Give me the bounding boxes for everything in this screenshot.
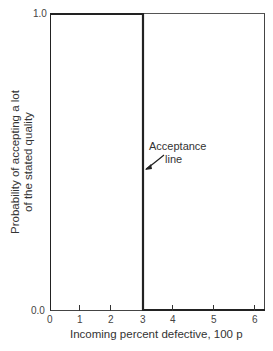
x-tick-5: 5 <box>211 314 217 325</box>
x-tick-4: 4 <box>170 314 176 325</box>
x-tick-mark-4 <box>172 305 173 311</box>
y-axis-title: Probability of accepting a lot of the st… <box>9 90 35 234</box>
x-tick-mark-6 <box>254 305 255 311</box>
y-tick-0: 0.0 <box>31 305 45 316</box>
x-tick-1: 1 <box>77 314 83 325</box>
x-tick-0: 0 <box>47 314 53 325</box>
x-tick-6: 6 <box>252 314 258 325</box>
x-axis-title: Incoming percent defective, 100 p <box>70 328 243 340</box>
x-tick-2: 2 <box>108 314 114 325</box>
y-axis-title-line-1: Probability of accepting a lot <box>9 90 22 234</box>
x-tick-mark-5 <box>213 305 214 311</box>
y-tick-1: 1.0 <box>33 8 47 19</box>
y-axis-title-line-2: of the stated quality <box>22 90 35 234</box>
x-tick-3: 3 <box>140 314 146 325</box>
annotation-arrow-icon <box>142 152 172 177</box>
x-tick-mark-1 <box>79 305 80 311</box>
x-tick-mark-2 <box>110 305 111 311</box>
